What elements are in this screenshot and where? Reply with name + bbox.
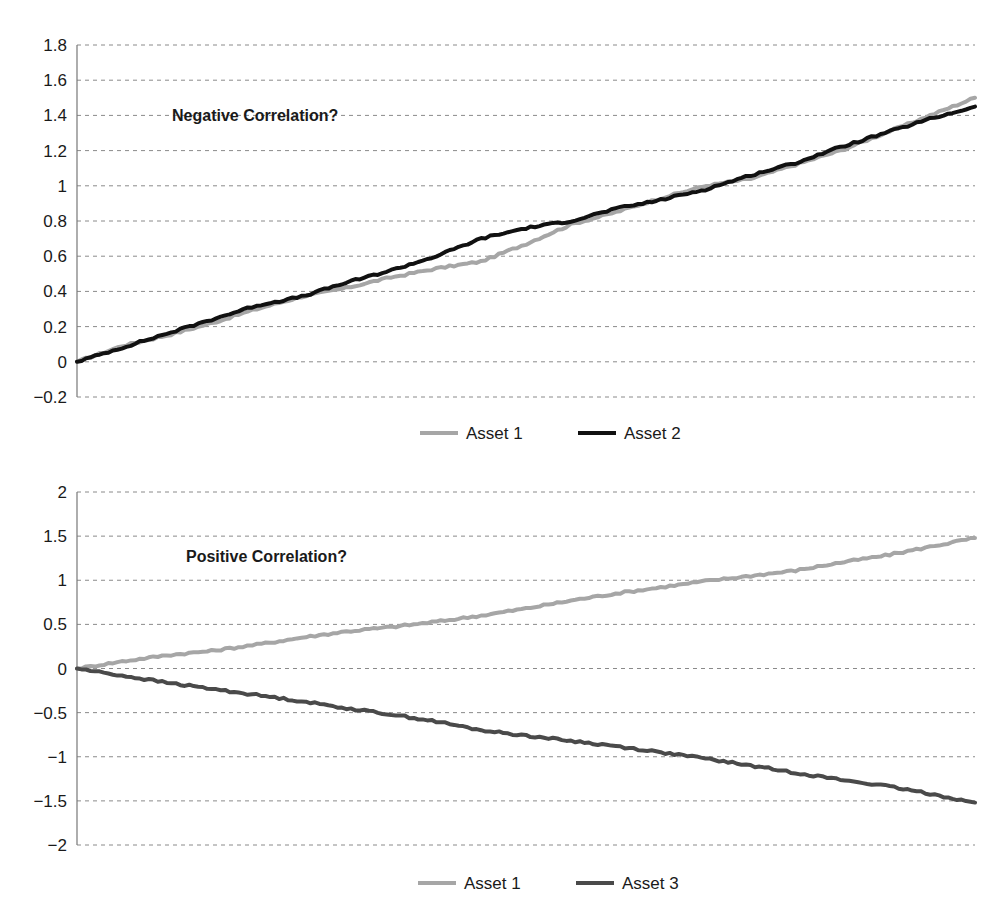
- y-tick-label: 1: [58, 571, 67, 590]
- y-tick-label: −0.2: [33, 388, 67, 407]
- legend-label: Asset 2: [624, 424, 681, 443]
- y-tick-label: 1.8: [43, 36, 67, 55]
- y-tick-label: 0.4: [43, 282, 67, 301]
- y-tick-label: 1.5: [43, 527, 67, 546]
- chart-annotation: Positive Correlation?: [186, 548, 347, 565]
- y-tick-label: 1: [58, 177, 67, 196]
- legend-label: Asset 1: [466, 424, 523, 443]
- series-line-asset-3: [77, 669, 975, 803]
- correlation-charts: 1.81.61.41.210.80.60.40.20−0.2Negative C…: [0, 0, 995, 910]
- y-tick-label: −1.5: [33, 792, 67, 811]
- chart-legend: Asset 1Asset 2: [420, 424, 681, 443]
- positive-correlation-chart: 21.510.50−0.5−1−1.5−2Positive Correlatio…: [33, 483, 975, 893]
- y-tick-label: 0.8: [43, 212, 67, 231]
- y-tick-label: 1.6: [43, 71, 67, 90]
- chart-annotation: Negative Correlation?: [172, 107, 338, 124]
- legend-label: Asset 3: [622, 874, 679, 893]
- negative-correlation-chart: 1.81.61.41.210.80.60.40.20−0.2Negative C…: [33, 36, 975, 443]
- y-tick-label: 1.2: [43, 142, 67, 161]
- y-tick-label: 2: [58, 483, 67, 502]
- y-tick-label: 0: [58, 353, 67, 372]
- legend-label: Asset 1: [464, 874, 521, 893]
- y-tick-label: −0.5: [33, 704, 67, 723]
- y-tick-label: 0.2: [43, 318, 67, 337]
- y-tick-label: 0: [58, 660, 67, 679]
- y-tick-label: 0.6: [43, 247, 67, 266]
- y-tick-label: −2: [48, 836, 67, 855]
- chart-legend: Asset 1Asset 3: [418, 874, 679, 893]
- y-tick-label: −1: [48, 748, 67, 767]
- y-tick-label: 1.4: [43, 106, 67, 125]
- y-tick-label: 0.5: [43, 615, 67, 634]
